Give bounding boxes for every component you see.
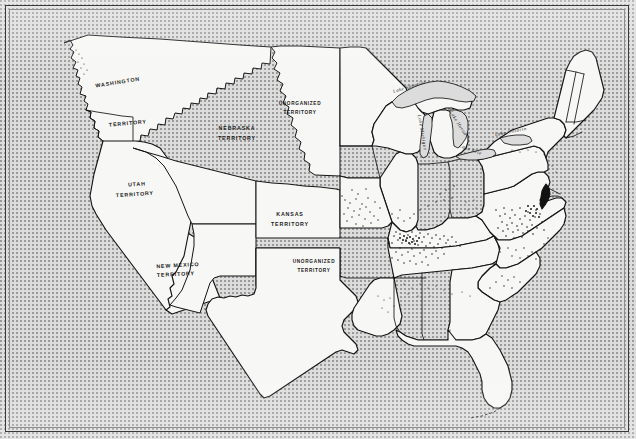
plate-frame-inner <box>9 9 625 428</box>
map-plate: WASHINGTON TERRITORY NEBRASKA TERRITORY … <box>0 0 636 439</box>
